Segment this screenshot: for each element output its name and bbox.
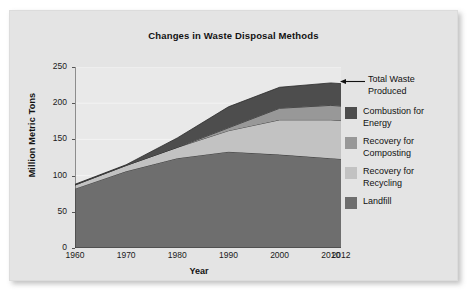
chart-card: Changes in Waste Disposal Methods Millio…	[9, 10, 458, 281]
total-waste-annotation-label: Total Waste Produced	[368, 74, 415, 96]
chart-title: Changes in Waste Disposal Methods	[9, 30, 458, 41]
total-waste-annotation: Total Waste Produced	[368, 74, 453, 97]
y-tick-label: 250	[21, 61, 67, 71]
legend-label: Recovery for Recycling	[363, 166, 453, 189]
y-tick-label: 200	[21, 97, 67, 107]
area-series-landfill	[75, 152, 341, 248]
arrow-icon	[340, 78, 366, 85]
y-tick-mark	[72, 248, 75, 249]
y-tick-label: 100	[21, 170, 67, 180]
x-tick-label: 1990	[208, 250, 248, 260]
x-tick-label: 1960	[55, 250, 95, 260]
legend-item: Landfill	[345, 196, 453, 209]
stacked-area-plot	[75, 67, 341, 248]
legend-item: Recovery for Composting	[345, 136, 453, 159]
legend-label: Recovery for Composting	[363, 136, 453, 159]
legend-item: Recovery for Recycling	[345, 166, 453, 189]
y-tick-label: 50	[21, 206, 67, 216]
legend-swatch	[345, 137, 357, 149]
chart-legend: Total Waste Produced Combustion for Ener…	[345, 74, 453, 216]
x-axis-title: Year	[64, 266, 334, 276]
legend-swatch	[345, 167, 357, 179]
legend-items: Combustion for EnergyRecovery for Compos…	[345, 106, 453, 209]
chart-page: Changes in Waste Disposal Methods Millio…	[0, 0, 473, 297]
y-tick-label: 150	[21, 133, 67, 143]
legend-swatch	[345, 107, 357, 119]
legend-swatch	[345, 197, 357, 209]
x-tick-label: 1970	[106, 250, 146, 260]
plot-area	[75, 67, 341, 248]
legend-label: Landfill	[363, 196, 392, 208]
x-tick-label: 2000	[260, 250, 300, 260]
legend-label: Combustion for Energy	[363, 106, 453, 129]
x-tick-label: 1980	[157, 250, 197, 260]
x-tick-label: 2012	[321, 250, 361, 260]
legend-item: Combustion for Energy	[345, 106, 453, 129]
